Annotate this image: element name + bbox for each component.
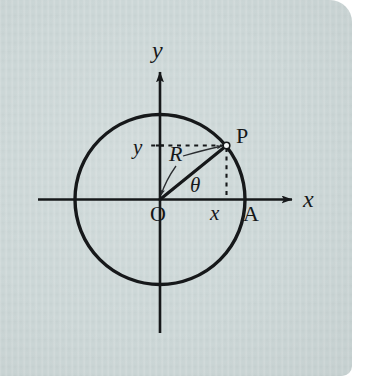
x-axis-label: x xyxy=(303,187,314,211)
figure-root: y x O P A R θ x y xyxy=(0,0,365,384)
origin-label: O xyxy=(150,203,166,225)
point-a-label: A xyxy=(243,203,259,225)
x-coordinate-label: x xyxy=(210,203,219,224)
angle-theta-label: θ xyxy=(190,175,200,196)
y-axis-label: y xyxy=(152,38,163,62)
point-p-marker xyxy=(223,142,230,149)
radius-label: R xyxy=(169,143,182,165)
point-p-label: P xyxy=(236,125,248,147)
y-coordinate-label: y xyxy=(133,137,142,158)
